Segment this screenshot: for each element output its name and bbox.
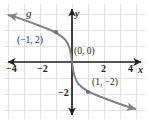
point-label-origin: (0, 0)	[74, 47, 95, 57]
x-tick-label-2: 2	[101, 64, 106, 74]
x-tick-label-neg4: −4	[6, 64, 17, 74]
y-axis-label: y	[75, 9, 79, 19]
point-marker-1-neg2	[86, 90, 90, 94]
y-tick-label-neg2: −2	[58, 88, 69, 98]
x-axis-label: x	[138, 65, 143, 75]
point-label-neg1-2: (−1, 2)	[17, 36, 43, 46]
x-tick-label-4: 4	[128, 64, 133, 74]
coordinate-plane-figure: g y x −4 −2 2 4 −2 (−1, 2) (0, 0) (1, −2…	[0, 0, 149, 123]
point-marker-neg1-2	[54, 30, 58, 34]
point-label-1-neg2: (1, −2)	[92, 78, 118, 88]
curve-label-g: g	[26, 8, 32, 19]
x-tick-label-neg2: −2	[37, 64, 48, 74]
